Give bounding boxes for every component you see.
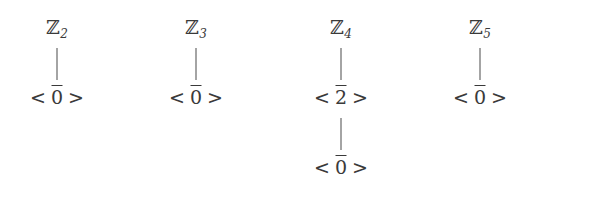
angle-open-z2: < [30,86,46,108]
generator-z5: 0 [469,88,491,107]
overline-bar-z2 [52,85,63,86]
group-subscript-z2: 2 [60,27,68,41]
edge-z3-top [196,48,197,80]
angle-close-z4-middle: > [352,86,368,108]
group-subscript-z4: 4 [344,27,352,41]
edge-z5-top [480,48,481,80]
angle-open-z3: < [169,86,185,108]
angle-close-z5: > [491,86,507,108]
overline-bar-z5 [475,85,486,86]
generator-value-z4-middle: 2 [335,86,347,108]
generator-value-z2: 0 [51,86,63,108]
group-letter-z3: ℤ [185,16,199,38]
node-z5-group: ℤ5 [405,18,555,40]
group-letter-z5: ℤ [469,16,483,38]
lattice-z4: ℤ4 <2> <0> [266,0,416,200]
node-z4-middle: <2> [266,88,416,107]
edge-z2-top [57,48,58,80]
node-z3-group: ℤ3 [121,18,271,40]
node-z4-group: ℤ4 [266,18,416,40]
overline-bar-z3 [191,85,202,86]
generator-z4-trivial: 0 [330,158,352,177]
node-z2-group: ℤ2 [0,18,132,40]
lattice-z3: ℤ3 <0> [121,0,271,200]
generator-value-z3: 0 [190,86,202,108]
angle-close-z3: > [207,86,223,108]
node-z5-trivial: <0> [405,88,555,107]
node-z3-trivial: <0> [121,88,271,107]
lattice-z5: ℤ5 <0> [405,0,555,200]
group-letter-z2: ℤ [46,16,60,38]
angle-open-z4-middle: < [314,86,330,108]
node-z2-trivial: <0> [0,88,132,107]
generator-value-z4-trivial: 0 [335,156,347,178]
angle-open-z5: < [453,86,469,108]
group-subscript-z5: 5 [483,27,491,41]
group-letter-z4: ℤ [330,16,344,38]
edge-z4-top [341,48,342,80]
angle-open-z4-trivial: < [314,156,330,178]
node-z4-trivial: <0> [266,158,416,177]
generator-z2: 0 [46,88,68,107]
overline-bar-z4-trivial [336,155,347,156]
generator-z4-middle: 2 [330,88,352,107]
generator-z3: 0 [185,88,207,107]
generator-value-z5: 0 [474,86,486,108]
edge-z4-bottom [341,118,342,150]
overline-bar-z4-middle [336,85,347,86]
lattice-z2: ℤ2 <0> [0,0,132,200]
angle-close-z4-trivial: > [352,156,368,178]
subgroup-lattice-figure: ℤ2 <0> ℤ3 <0> ℤ4 <2> <0> ℤ5 [0,0,600,200]
angle-close-z2: > [68,86,84,108]
group-subscript-z3: 3 [199,27,207,41]
